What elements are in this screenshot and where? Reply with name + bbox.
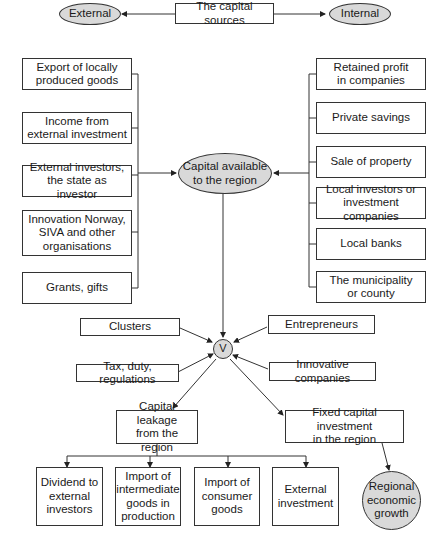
source-external-income: Income from external investment <box>22 112 132 144</box>
output-dividend: Dividend to external investors <box>36 467 103 526</box>
external-oval: External <box>59 3 121 25</box>
source-external-investors: External investors, the state as investo… <box>22 165 132 197</box>
output-import-intermediate: Import of intermediate goods in producti… <box>115 467 181 526</box>
source-sale-property: Sale of property <box>316 146 426 178</box>
capital-leakage-box: Capital leakage from the region <box>116 410 198 444</box>
source-innovation-norway: Innovation Norway, SIVA and other organi… <box>22 210 132 256</box>
source-private-savings: Private savings <box>316 102 426 134</box>
capital-available-oval: Capital available to the region <box>178 153 272 194</box>
source-local-banks: Local banks <box>316 228 426 260</box>
influence-clusters: Clusters <box>80 318 180 336</box>
fixed-capital-investment-box: Fixed capital investment in the region <box>285 410 404 443</box>
junction-v: V <box>213 339 233 359</box>
output-external-investment: External investment <box>272 467 339 526</box>
regional-growth-oval: Regional economic growth <box>362 471 421 530</box>
source-grants: Grants, gifts <box>22 272 132 304</box>
source-retained-profit: Retained profit in companies <box>316 58 426 90</box>
output-import-consumer: Import of consumer goods <box>194 467 260 526</box>
influence-tax: Tax, duty, regulations <box>76 364 179 382</box>
internal-oval: Internal <box>329 3 391 25</box>
capital-sources-box: The capital sources <box>175 3 274 24</box>
source-municipality: The municipality or county <box>316 271 426 303</box>
influence-entrepreneurs: Entrepreneurs <box>268 315 375 334</box>
influence-innovative: Innovative companies <box>269 362 376 381</box>
source-local-investors: Local investors or investment companies <box>316 187 426 219</box>
source-export: Export of locally produced goods <box>22 58 132 90</box>
